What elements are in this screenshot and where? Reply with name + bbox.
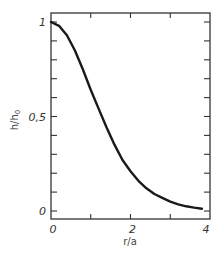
axis-ticks [51, 13, 210, 219]
y-tick-label: 0 [39, 205, 46, 218]
x-tick-label: 0 [50, 223, 57, 236]
data-curve [51, 22, 202, 209]
plot-frame [51, 13, 210, 219]
x-tick-label: 2 [129, 223, 136, 236]
tick-labels: 00,51024 [29, 16, 210, 236]
y-tick-label: 1 [39, 16, 46, 29]
chart: 00,51024 r/a h/h0 [0, 0, 223, 265]
x-tick-label: 4 [203, 223, 210, 236]
y-axis-label: h/h0 [9, 110, 22, 131]
x-axis-label: r/a [123, 236, 137, 247]
y-tick-label: 0,5 [29, 111, 47, 124]
svg-text:h/h0: h/h0 [9, 110, 22, 131]
